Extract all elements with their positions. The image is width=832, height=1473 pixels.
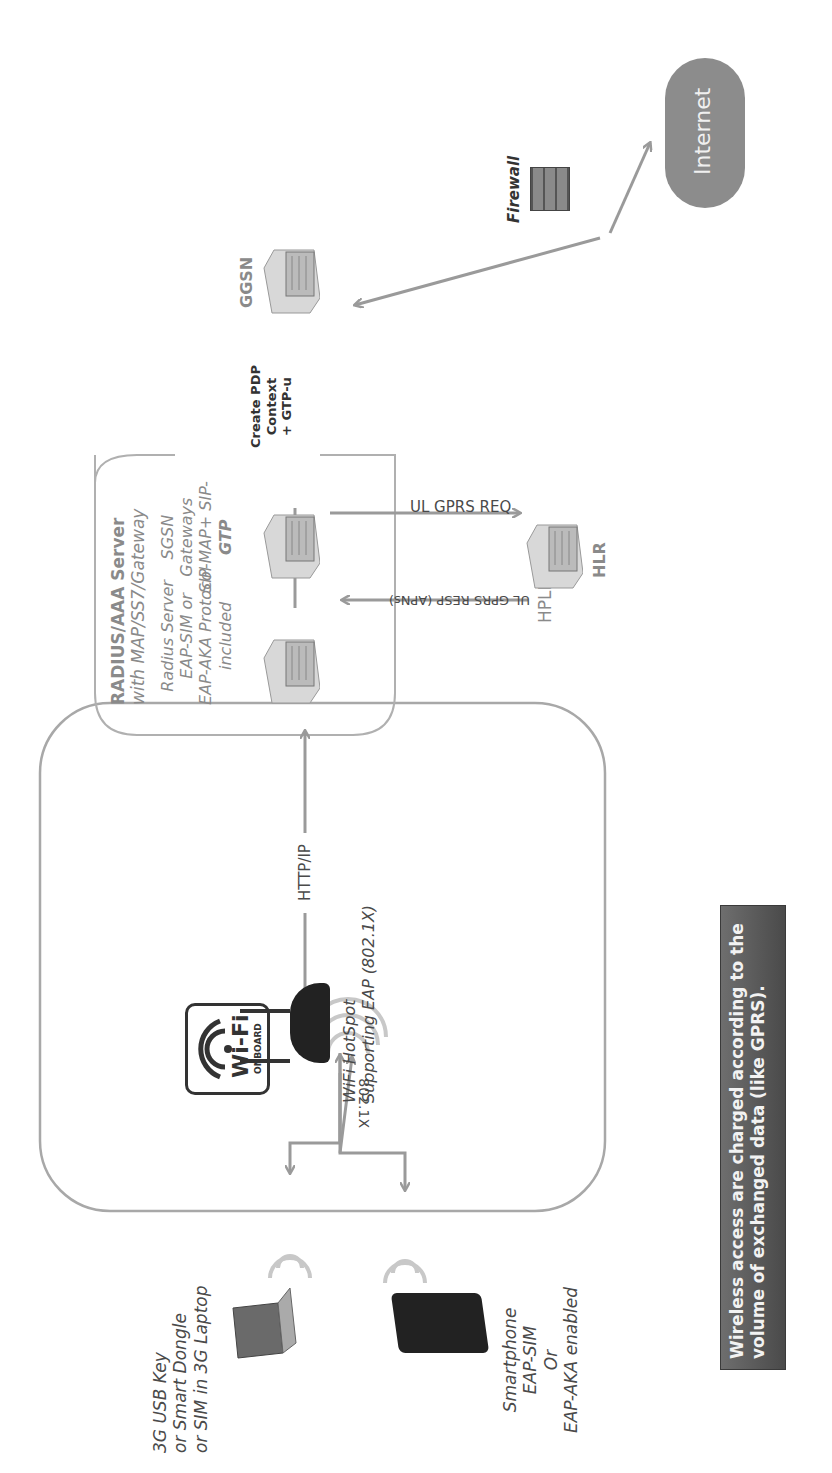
badge-sub: ONBOARD [253, 1023, 263, 1074]
sgsn-server-icon [262, 513, 320, 583]
ul-gprs-req-label: UL GPRS REQ [410, 498, 511, 516]
router-icon [290, 983, 330, 1063]
sgsn-label-line: SIP-MAP+ SIP- [196, 481, 215, 593]
laptop-label-line: or SIM in 3G Laptop [191, 1285, 211, 1453]
radius-server-icon [262, 638, 320, 708]
badge-main: Wi-Fi [228, 1014, 253, 1078]
laptop-label: 3G USB Key or Smart Dongle or SIM in 3G … [150, 1285, 211, 1453]
hlr-label: HLR [590, 542, 609, 578]
internet-label: Internet [690, 88, 716, 175]
pdp-label: Create PDP Context + GTP-u [248, 365, 295, 448]
router-antenna [240, 1009, 290, 1013]
sgsn-label-line: SGSN [158, 481, 177, 593]
connectors [0, 0, 832, 1473]
router-antenna [240, 1059, 290, 1063]
hplmn-boundary [40, 703, 605, 1211]
hotspot-label-line: Supporting EAP (802.1X) [359, 905, 378, 1103]
firewall-label: Firewall [505, 156, 523, 223]
hotspot-label: WiFi HotSpot Supporting EAP (802.1X) [340, 905, 378, 1103]
hotspot-label-line: WiFi HotSpot [340, 905, 359, 1103]
smartphone-label: Smartphone EAP-SIM Or EAP-AKA enabled [500, 1287, 582, 1433]
charging-note: Wireless access are charged according to… [720, 905, 786, 1370]
laptop-signal-icon [270, 1256, 310, 1278]
ggsn-server-icon [262, 248, 320, 318]
pdp-label-line: Create PDP [248, 365, 264, 448]
laptop-label-line: 3G USB Key [150, 1285, 170, 1453]
note-line: Wireless access are charged according to… [727, 916, 748, 1359]
laptop-icon [228, 1283, 298, 1363]
phone-signal-icon [385, 1261, 425, 1283]
smartphone-icon [391, 1293, 489, 1353]
smartphone-label-line: Or [541, 1287, 561, 1433]
hlr-server-icon [525, 523, 583, 593]
note-line: volume of exchanged data (like GPRS). [748, 916, 769, 1359]
ul-gprs-resp-label: UL GPRS RESP (APNs) [389, 592, 530, 608]
firewall-icon [530, 167, 570, 211]
smartphone-label-line: EAP-AKA enabled [561, 1287, 581, 1433]
smartphone-label-line: Smartphone [500, 1287, 520, 1433]
sgsn-label-line: GTP [216, 481, 235, 593]
http-ip-label: HTTP/IP [296, 844, 314, 901]
pdp-label-line: + GTP-u [279, 365, 295, 448]
smartphone-label-line: EAP-SIM [520, 1287, 540, 1433]
pdp-label-line: Context [264, 365, 280, 448]
wifi-onboard-badge: Wi-Fi ONBOARD [185, 1003, 270, 1095]
sgsn-label: SGSN Gateways SIP-MAP+ SIP- GTP [158, 481, 235, 593]
aaa-title-block: RADIUS/AAA Server with MAP/SS7/Gateway [108, 509, 149, 705]
laptop-label-line: or Smart Dongle [170, 1285, 190, 1453]
aaa-title: RADIUS/AAA Server [108, 509, 128, 705]
aaa-subtitle: with MAP/SS7/Gateway [128, 509, 148, 705]
sgsn-label-line: Gateways [177, 481, 196, 593]
diagram-canvas: 3G USB Key or Smart Dongle or SIM in 3G … [0, 0, 832, 1473]
ggsn-label: GGSN [237, 257, 256, 308]
